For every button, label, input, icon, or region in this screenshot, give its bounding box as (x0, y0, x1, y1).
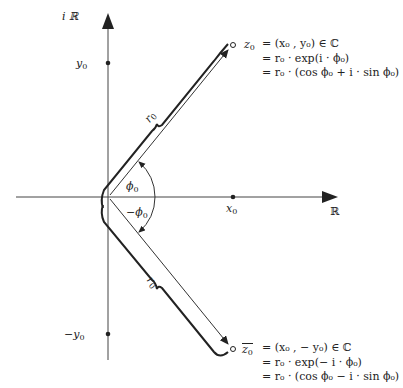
neg-phi0-label: −ϕ0 (126, 206, 148, 222)
z0-eq-line2: = r₀ · exp(i · ϕ₀) (262, 52, 399, 67)
z0-conj-equations: = (x₀ , − y₀) ∈ ℂ = r₀ · exp(− i · ϕ₀) =… (262, 341, 399, 385)
brace-r0-lower (102, 205, 228, 356)
real-axis-arrow-icon (322, 191, 338, 203)
z0-conj-eq-line3: = r₀ · (cos ϕ₀ − i · sin ϕ₀) (262, 370, 399, 385)
z0-name: z0 (244, 38, 255, 54)
phi0-label: ϕ0 (126, 180, 139, 196)
z0-eq-line3: = r₀ · (cos ϕ₀ + i · sin ϕ₀) (262, 66, 399, 81)
y0-point (106, 61, 111, 66)
z0-conj-name: z0 (242, 343, 253, 359)
angle-arc-phi0 (139, 162, 155, 197)
real-axis-label: ℝ (330, 205, 339, 218)
brace-r0-upper (102, 44, 228, 208)
imag-axis-label: i ℝ (62, 10, 78, 23)
z0-equations: = (x₀ , y₀) ∈ ℂ = r₀ · exp(i · ϕ₀) = r₀ … (262, 37, 399, 81)
z0-eq-line1: = (x₀ , y₀) ∈ ℂ (262, 37, 399, 52)
neg-y0-point (106, 332, 111, 337)
z0-conj-eq-line1: = (x₀ , − y₀) ∈ ℂ (262, 341, 399, 356)
real-axis (16, 191, 338, 203)
vector-z0 (110, 50, 228, 195)
x0-label: x0 (226, 202, 237, 218)
imag-axis-arrow-icon (102, 13, 114, 29)
z0-conj-point (231, 347, 236, 352)
x0-point (231, 195, 236, 200)
z0-point (231, 43, 236, 48)
y0-label: y0 (76, 57, 87, 73)
neg-y0-label: −y0 (64, 328, 85, 344)
z0-conj-eq-line2: = r₀ · exp(− i · ϕ₀) (262, 356, 399, 371)
